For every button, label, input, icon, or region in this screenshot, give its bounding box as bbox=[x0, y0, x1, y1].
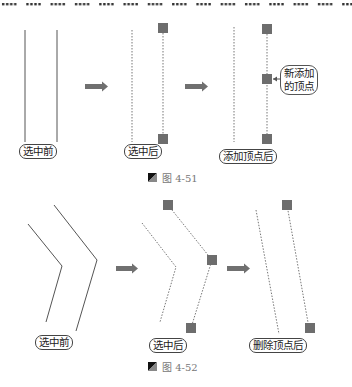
fig52-caption: 图 4-52 bbox=[148, 359, 198, 374]
figure-marker-icon bbox=[148, 362, 157, 371]
fig51-caption-text: 图 4-51 bbox=[162, 170, 198, 185]
fig52-caption-text: 图 4-52 bbox=[162, 359, 198, 374]
vertex-square-icon bbox=[158, 23, 168, 33]
right-arrow-icon bbox=[185, 82, 208, 92]
figure-marker-icon bbox=[148, 173, 157, 182]
fig51-label-selected: 选中后 bbox=[124, 144, 162, 159]
right-arrow-icon bbox=[116, 264, 138, 274]
fig52-panel-before bbox=[28, 205, 97, 331]
fig52-label-before: 选中前 bbox=[35, 335, 73, 350]
fig51-label-added: 添加顶点后 bbox=[219, 149, 277, 164]
fig51-panel-selected bbox=[132, 23, 168, 144]
right-arrow-icon bbox=[227, 264, 250, 274]
fig51-panel-added bbox=[234, 24, 281, 144]
fig51-caption: 图 4-51 bbox=[148, 170, 198, 185]
figure-4-51-drawing bbox=[0, 0, 352, 387]
fig52-panel-selected bbox=[142, 200, 217, 333]
fig52-label-deleted: 删除顶点后 bbox=[249, 338, 307, 353]
callout-line-2: 的顶点 bbox=[284, 80, 314, 93]
vertex-square-icon bbox=[158, 134, 168, 144]
fig52-label-selected: 选中后 bbox=[149, 338, 187, 353]
vertex-square-icon bbox=[186, 323, 196, 333]
vertex-square-icon bbox=[207, 255, 217, 265]
right-arrow-icon bbox=[85, 82, 108, 92]
fig52-panel-deleted bbox=[256, 200, 315, 334]
fig51-callout-new-vertex: 新添加 的顶点 bbox=[280, 65, 318, 95]
fig51-label-before: 选中前 bbox=[19, 144, 57, 159]
vertex-square-icon bbox=[163, 200, 173, 210]
fig51-panel-before bbox=[25, 30, 57, 142]
callout-line-1: 新添加 bbox=[284, 67, 314, 80]
vertex-square-icon bbox=[305, 323, 315, 333]
vertex-square-icon bbox=[262, 24, 272, 34]
vertex-square-icon bbox=[262, 134, 272, 144]
vertex-square-icon bbox=[282, 200, 292, 210]
vertex-square-icon bbox=[262, 74, 272, 84]
